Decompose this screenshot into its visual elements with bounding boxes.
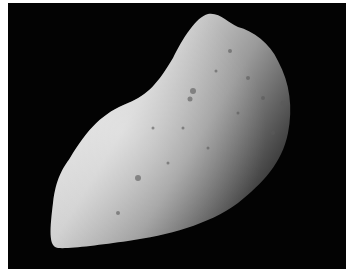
asteroid-photo [8, 3, 346, 269]
asteroid-illustration [8, 3, 346, 269]
